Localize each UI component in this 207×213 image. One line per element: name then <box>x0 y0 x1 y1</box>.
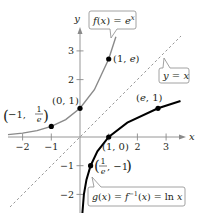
x-axis-label: x <box>189 131 195 142</box>
label-point-e-1: (e, 1) <box>136 92 163 103</box>
svg-text:, −1: , −1 <box>107 161 128 172</box>
svg-text:−1,: −1, <box>8 109 26 120</box>
point-inv-e-neg1 <box>88 163 93 168</box>
point-1-e <box>106 56 111 61</box>
y-tick-label: −2 <box>60 189 74 200</box>
point-e-1 <box>155 106 160 111</box>
svg-text:g(x) = f−1(x) = ln x: g(x) = f−1(x) = ln x <box>92 190 183 202</box>
y-tick-label: 3 <box>68 45 74 56</box>
y-tick-label: −1 <box>60 160 74 171</box>
label-point-1-e: (1, e) <box>113 53 140 64</box>
function-inverse-graph: −2 −1 2 3 3 2 −1 −2 x y (0, 1) (1, e) (1… <box>0 0 207 213</box>
svg-text:1: 1 <box>100 157 105 166</box>
callout-identity: y = x <box>159 58 189 83</box>
svg-text:y = x: y = x <box>162 70 189 81</box>
callout-ln: g(x) = f−1(x) = ln x <box>88 177 185 206</box>
svg-text:e: e <box>37 115 42 124</box>
x-axis-arrow-icon <box>179 135 186 140</box>
label-point-0-1: (0, 1) <box>52 95 79 106</box>
y-axis-label: y <box>73 13 80 24</box>
point-1-0 <box>106 134 111 139</box>
svg-text:f(x) = ex: f(x) = ex <box>92 14 135 26</box>
callout-exp: f(x) = ex <box>89 11 136 38</box>
y-axis-arrow-icon <box>78 27 83 34</box>
x-tick-label: 3 <box>163 141 169 152</box>
point-neg1-inv-e <box>49 124 54 129</box>
y-tick-label: 2 <box>68 74 74 85</box>
svg-text:1: 1 <box>36 105 41 114</box>
point-0-1 <box>77 106 82 111</box>
svg-text:): ) <box>126 157 132 175</box>
x-tick-label: −2 <box>16 141 30 152</box>
label-point-1-0: (1, 0) <box>102 141 129 152</box>
label-point-inv-e-neg1: ( 1 e , −1 ) <box>94 157 132 176</box>
x-tick-label: −1 <box>44 141 58 152</box>
label-point-neg1-inv-e: ( −1, 1 e ) <box>3 105 49 125</box>
svg-text:(: ( <box>94 157 100 175</box>
svg-text:e: e <box>101 167 106 176</box>
x-tick-label: 2 <box>134 141 140 152</box>
svg-text:): ) <box>43 107 49 125</box>
